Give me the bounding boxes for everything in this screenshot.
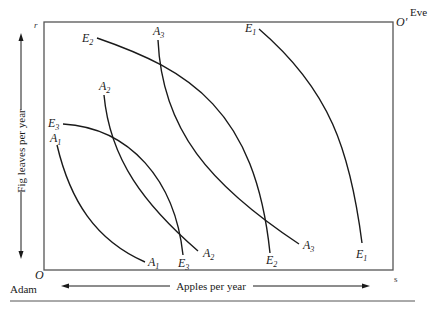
svg-text:E3: E3 xyxy=(177,256,189,272)
svg-text:A1: A1 xyxy=(147,255,159,271)
x-axis-label: Apples per year xyxy=(176,280,246,292)
adam-curve-a3 xyxy=(158,40,299,244)
svg-text:E2: E2 xyxy=(265,253,277,269)
svg-text:E1: E1 xyxy=(244,21,256,37)
y-axis-label: Fig leaves per year xyxy=(15,109,27,193)
eve-curve-e2 xyxy=(97,38,270,253)
label-e3-top: E3 xyxy=(47,116,59,132)
corner-s-label: s xyxy=(394,274,398,284)
x-axis-arrow: Apples per year xyxy=(61,280,370,292)
corner-r-label: r xyxy=(34,20,38,30)
label-e3-bottom: E3 xyxy=(177,256,189,272)
label-e2-top: E2 xyxy=(81,31,93,47)
label-e2-bottom: E2 xyxy=(265,253,277,269)
y-axis-arrow: Fig leaves per year xyxy=(15,33,27,259)
svg-text:A3: A3 xyxy=(152,24,164,40)
edgeworth-box-diagram: r s O O′ Eve Adam Fig leaves per year Ap… xyxy=(0,0,440,309)
eve-curve-e3 xyxy=(63,124,183,255)
adam-curve-a1 xyxy=(57,145,145,262)
eve-label: Eve xyxy=(410,6,427,18)
svg-text:A3: A3 xyxy=(302,238,314,254)
label-a3-bottom: A3 xyxy=(302,238,314,254)
label-a2-top: A2 xyxy=(98,79,110,95)
label-e1-top: E1 xyxy=(244,21,256,37)
svg-text:A1: A1 xyxy=(49,131,61,147)
svg-text:E2: E2 xyxy=(81,31,93,47)
label-e1-bottom: E1 xyxy=(355,247,367,263)
adam-label: Adam xyxy=(10,283,37,295)
svg-text:E1: E1 xyxy=(355,247,367,263)
label-a1-bottom: A1 xyxy=(147,255,159,271)
adam-curve-a2 xyxy=(104,95,198,251)
svg-text:A2: A2 xyxy=(98,79,110,95)
origin-adam-label: O xyxy=(35,268,44,282)
svg-text:E3: E3 xyxy=(47,116,59,132)
label-a1-top: A1 xyxy=(49,131,61,147)
label-a2-bottom: A2 xyxy=(202,246,214,262)
eve-curve-e1 xyxy=(259,29,362,243)
origin-eve-label: O′ xyxy=(396,15,408,29)
svg-text:A2: A2 xyxy=(202,246,214,262)
label-a3-top: A3 xyxy=(152,24,164,40)
